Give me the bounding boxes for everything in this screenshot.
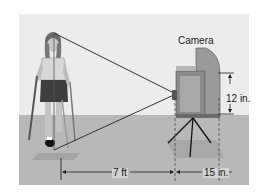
ray-top xyxy=(54,33,176,94)
camera-label: Camera xyxy=(178,36,214,46)
person-shadow xyxy=(32,153,80,160)
camera-depth-label: 15 in. xyxy=(203,168,229,178)
diagram-scene xyxy=(0,0,262,193)
camera-height-label: 12 in. xyxy=(226,94,250,104)
distance-label: 7 ft xyxy=(112,168,128,178)
person-figure xyxy=(29,32,75,148)
camera-icon xyxy=(172,48,220,118)
